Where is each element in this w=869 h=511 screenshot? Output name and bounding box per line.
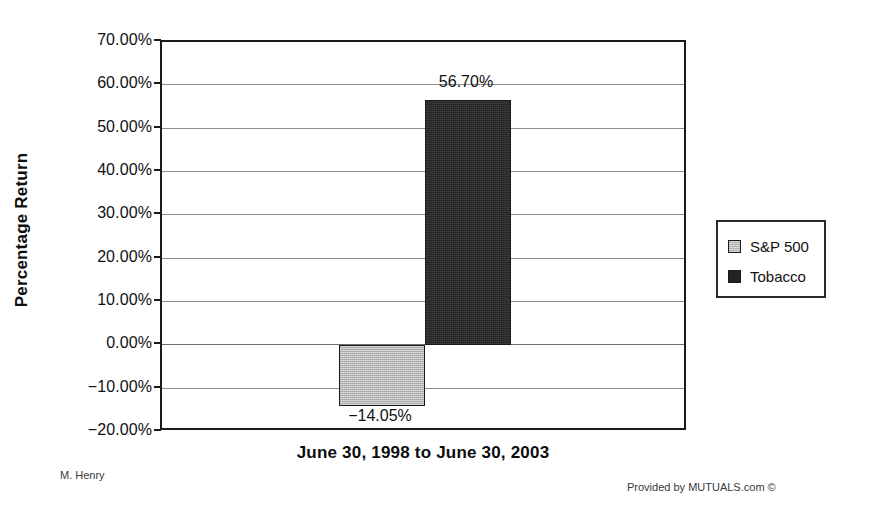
y-axis-tick-label: −10.00% (88, 378, 152, 396)
y-axis-tick-label: −20.00% (88, 421, 152, 439)
y-axis-tick-label: 20.00% (97, 248, 152, 266)
data-label-tobacco: 56.70% (439, 73, 493, 91)
gridline (162, 84, 684, 85)
y-axis-tick-label: 0.00% (106, 334, 152, 352)
bar-sp500[interactable] (339, 345, 425, 406)
gridline (162, 214, 684, 215)
legend-swatch-tobacco-icon (728, 270, 741, 283)
author-credit: M. Henry (60, 469, 105, 481)
y-axis-tick-label: 10.00% (97, 291, 152, 309)
gridline (162, 301, 684, 302)
gridline (162, 258, 684, 259)
y-axis-tick-label: 50.00% (97, 118, 152, 136)
plot-area (160, 40, 686, 430)
chart-page: Percentage Return 70.00%60.00%50.00%40.0… (0, 0, 869, 511)
legend: S&P 500 Tobacco (716, 220, 826, 298)
gridline (162, 128, 684, 129)
legend-label-tobacco: Tobacco (750, 268, 806, 285)
legend-item-tobacco[interactable]: Tobacco (728, 261, 824, 291)
provider-credit: Provided by MUTUALS.com © (627, 481, 776, 493)
gridline (162, 171, 684, 172)
data-label-sp500: −14.05% (348, 407, 412, 425)
legend-item-sp500[interactable]: S&P 500 (728, 231, 824, 261)
y-axis-tick-label: 60.00% (97, 74, 152, 92)
bar-tobacco[interactable] (425, 100, 511, 346)
legend-swatch-sp500-icon (728, 240, 741, 253)
y-axis-tick-label: 40.00% (97, 161, 152, 179)
legend-label-sp500: S&P 500 (750, 238, 809, 255)
y-axis-title: Percentage Return (12, 153, 32, 308)
x-axis-title: June 30, 1998 to June 30, 2003 (160, 443, 686, 463)
y-axis-tick-label: 70.00% (97, 31, 152, 49)
y-axis-tick-label: 30.00% (97, 204, 152, 222)
